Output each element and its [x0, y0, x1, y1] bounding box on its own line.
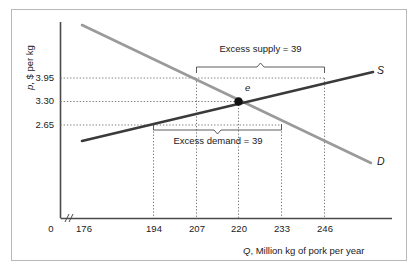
x-tick-label-176: 176	[69, 223, 99, 234]
supply-curve-label: S	[377, 64, 384, 76]
excess-demand-label: Excess demand = 39	[155, 135, 281, 146]
excess-supply-label: Excess supply = 39	[200, 43, 321, 54]
x-axis-title: Q, Million kg of pork per year	[243, 245, 364, 256]
x-tick-label-233: 233	[267, 223, 297, 234]
excess-supply-bracket	[197, 63, 325, 73]
demand-curve-label: D	[377, 155, 385, 167]
y-tick-label-265: 2.65	[24, 119, 54, 130]
supply-demand-figure: p, $ per kg Q, Million kg of pork per ye…	[0, 0, 419, 272]
y-tick-label-330: 3.30	[24, 95, 54, 106]
x-axis-units: , Million kg of pork per year	[250, 245, 364, 256]
y-tick-label-395: 3.95	[24, 72, 54, 83]
x-tick-label-246: 246	[310, 223, 340, 234]
y-axis-title: p, $ per kg	[24, 45, 35, 90]
equilibrium-point-label: e	[245, 82, 250, 93]
x-tick-label-0: 0	[41, 223, 61, 234]
x-tick-label-207: 207	[182, 223, 212, 234]
x-tick-label-194: 194	[139, 223, 169, 234]
supply-curve	[82, 72, 373, 141]
y-axis-variable: p	[24, 85, 35, 90]
x-tick-label-220: 220	[224, 223, 254, 234]
equilibrium-point-marker	[234, 97, 242, 105]
